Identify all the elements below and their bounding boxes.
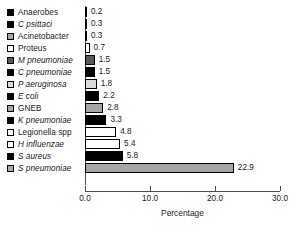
bar: [85, 103, 103, 113]
category-label: Anaerobes: [18, 8, 58, 17]
x-axis-tick-label: 10.0: [130, 194, 170, 203]
bar: [85, 91, 99, 101]
bar: [85, 55, 95, 65]
legend-swatch-icon: [7, 165, 14, 172]
bar-row: 2.8: [85, 102, 280, 114]
x-axis-tick: [85, 186, 86, 191]
bar-value-label: 1.8: [101, 78, 112, 90]
bar: [85, 163, 234, 173]
x-axis-title: Percentage: [85, 208, 280, 218]
bar-value-label: 22.9: [238, 162, 254, 174]
bar-value-label: 5.8: [127, 150, 138, 162]
category-label: Acinetobacter: [18, 32, 69, 41]
bar: [85, 19, 87, 29]
bar-value-label: 1.5: [99, 54, 110, 66]
bar-value-label: 0.2: [91, 6, 102, 18]
legend-swatch-icon: [7, 45, 14, 52]
legend-swatch-icon: [7, 129, 14, 136]
bar-value-label: 0.7: [94, 42, 105, 54]
bar: [85, 7, 87, 17]
x-axis-tick: [215, 186, 216, 191]
legend-swatch-icon: [7, 57, 14, 64]
bar-row: 22.9: [85, 162, 280, 174]
legend-swatch-icon: [7, 141, 14, 148]
bar-row: 1.5: [85, 66, 280, 78]
bar: [85, 31, 87, 41]
category-label: S pneumoniae: [18, 164, 71, 173]
category-label: P aeruginosa: [18, 80, 67, 89]
category-label: C psittaci: [18, 20, 52, 29]
bar-row: 2.2: [85, 90, 280, 102]
x-axis-tick: [280, 186, 281, 191]
legend-swatch-icon: [7, 33, 14, 40]
category-label: GNEB: [18, 104, 41, 113]
category-label: H influenzae: [18, 140, 64, 149]
bar-value-label: 0.3: [91, 30, 102, 42]
category-label: E coli: [18, 92, 38, 101]
bar-value-label: 2.8: [107, 102, 118, 114]
bar: [85, 139, 120, 149]
legend-swatch-icon: [7, 69, 14, 76]
legend-swatch-icon: [7, 117, 14, 124]
category-label: Legionella spp: [18, 128, 72, 137]
category-label: S aureus: [18, 152, 51, 161]
category-label: K pneumoniae: [18, 116, 71, 125]
bar-row: 0.7: [85, 42, 280, 54]
bar-row: 1.5: [85, 54, 280, 66]
bar-chart: AnaerobesC psittaciAcinetobacterProteusM…: [0, 0, 299, 235]
legend-swatch-icon: [7, 105, 14, 112]
bar-value-label: 1.5: [99, 66, 110, 78]
legend-swatch-icon: [7, 9, 14, 16]
bar-value-label: 2.2: [103, 90, 114, 102]
bar-row: 5.8: [85, 150, 280, 162]
bar-value-label: 0.3: [91, 18, 102, 30]
x-axis-tick-label: 0.0: [65, 194, 105, 203]
bar-row: 0.2: [85, 6, 280, 18]
x-axis-tick-label: 20.0: [195, 194, 235, 203]
bar: [85, 151, 123, 161]
bar-row: 1.8: [85, 78, 280, 90]
plot-area: 0.20.30.30.71.51.51.82.22.83.34.85.45.82…: [85, 6, 280, 186]
legend-swatch-icon: [7, 21, 14, 28]
bar-row: 3.3: [85, 114, 280, 126]
bar: [85, 115, 106, 125]
bar-row: 5.4: [85, 138, 280, 150]
legend-swatch-icon: [7, 81, 14, 88]
x-axis-tick-label: 30.0: [260, 194, 299, 203]
bar-row: 4.8: [85, 126, 280, 138]
bar-value-label: 3.3: [110, 114, 121, 126]
legend-swatch-icon: [7, 93, 14, 100]
category-label: Proteus: [18, 44, 47, 53]
bar: [85, 67, 95, 77]
bar-value-label: 4.8: [120, 126, 131, 138]
category-label: M pneumoniae: [18, 56, 73, 65]
bar: [85, 43, 90, 53]
category-label: C pneumoniae: [18, 68, 72, 77]
bar-row: 0.3: [85, 30, 280, 42]
bar: [85, 79, 97, 89]
bar: [85, 127, 116, 137]
x-axis-tick: [150, 186, 151, 191]
bar-row: 0.3: [85, 18, 280, 30]
bar-value-label: 5.4: [124, 138, 135, 150]
legend-swatch-icon: [7, 153, 14, 160]
x-axis-line: [85, 191, 280, 192]
